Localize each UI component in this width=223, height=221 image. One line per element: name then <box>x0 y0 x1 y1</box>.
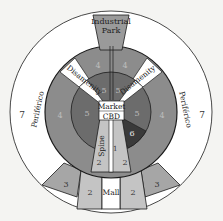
zone-7-left-num: 7 <box>19 110 25 120</box>
zone-2-inner-right-num: 2 <box>122 158 127 167</box>
market-label: Market <box>98 102 126 111</box>
city-structure-diagram: Industrial Park Disamenity Disamenity Pe… <box>0 0 223 221</box>
zone-5-top-right-num: 5 <box>115 86 120 95</box>
zone-2-outer-right-num: 2 <box>130 188 135 197</box>
spine-label: Spine <box>97 135 106 157</box>
zone-7-right-num: 7 <box>199 110 205 120</box>
cbd-label: CBD <box>103 112 120 121</box>
zone-3-right-num: 3 <box>154 180 159 189</box>
industrial-label-1: Industrial <box>91 17 131 26</box>
mall-label: Mall <box>103 188 121 197</box>
zone-4-left-num: 4 <box>57 111 62 120</box>
zone-5-right-num: 5 <box>134 109 139 118</box>
zone-3-left-num: 3 <box>63 180 68 189</box>
industrial-label-2: Park <box>102 26 121 35</box>
zone-4-top-right-num: 4 <box>122 61 127 70</box>
zone-6-num: 6 <box>129 129 134 138</box>
zone-5-top-left-num: 5 <box>101 86 106 95</box>
zone-1-num: 1 <box>113 145 117 153</box>
zone-4-top-left-num: 4 <box>95 61 100 70</box>
zone-2-outer-left-num: 2 <box>87 188 92 197</box>
zone-5-left-num: 5 <box>84 109 89 118</box>
zone-2-inner-left-num: 2 <box>96 158 101 167</box>
zone-4-right-num: 4 <box>159 111 164 120</box>
